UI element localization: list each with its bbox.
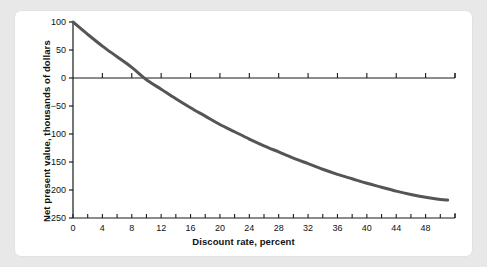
x-axis-tick-marks (73, 213, 455, 218)
npv-discount-rate-chart: Net present value, thousands of dollars … (0, 0, 487, 267)
zero-line-tick-marks (102, 73, 455, 78)
plot-canvas (0, 0, 487, 267)
npv-curve-line (73, 22, 448, 200)
axes-group (73, 22, 455, 218)
